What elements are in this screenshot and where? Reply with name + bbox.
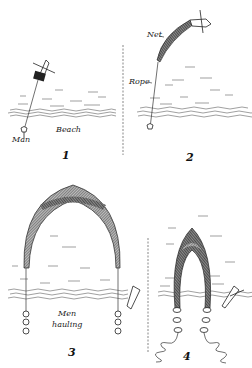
seine-net-diagram bbox=[0, 0, 252, 368]
coiled-rope-left bbox=[155, 333, 178, 362]
label-beach: Beach bbox=[56, 126, 81, 134]
label-man: Man bbox=[12, 136, 30, 144]
label-rope: Rope bbox=[129, 78, 150, 86]
net-shape bbox=[157, 20, 194, 62]
panel-number-2: 2 bbox=[186, 152, 194, 163]
coiled-rope-right bbox=[204, 333, 227, 363]
rope-line bbox=[150, 62, 158, 128]
boat-icon bbox=[190, 10, 211, 33]
panel-number-3: 3 bbox=[68, 347, 76, 358]
men-hauling-left-icon bbox=[23, 311, 29, 334]
men-hauling-left-icon bbox=[173, 308, 182, 333]
men-hauling-right-icon bbox=[200, 308, 211, 333]
men-hauling-right-icon bbox=[115, 311, 121, 334]
label-men-hauling-line1: Men bbox=[58, 310, 76, 318]
label-net: Net bbox=[147, 31, 162, 39]
panel-number-1: 1 bbox=[62, 150, 70, 161]
beached-boat-icon bbox=[127, 286, 140, 309]
panel-4 bbox=[155, 216, 252, 363]
boat-icon bbox=[33, 60, 55, 81]
rope-line bbox=[24, 80, 38, 130]
panel-number-4: 4 bbox=[183, 351, 191, 362]
label-men-hauling-line2: hauling bbox=[52, 321, 82, 329]
net-pocket bbox=[174, 228, 211, 308]
water-lines bbox=[8, 90, 116, 117]
panel-2 bbox=[137, 10, 252, 129]
man-figure-icon bbox=[147, 124, 153, 130]
